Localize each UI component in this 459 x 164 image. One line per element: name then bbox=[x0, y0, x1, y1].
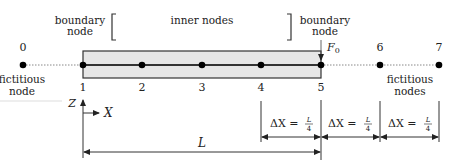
fictitious-left-label-2: node bbox=[9, 85, 35, 97]
bracket-left bbox=[112, 14, 116, 40]
svg-text:ΔX =: ΔX = bbox=[328, 117, 357, 130]
spacing-label-3: ΔX = L 4 bbox=[388, 116, 432, 133]
node-1 bbox=[80, 62, 87, 69]
force-label: F0 bbox=[326, 41, 340, 55]
svg-text:L: L bbox=[365, 116, 371, 124]
boundary-left-label-2: node bbox=[67, 25, 93, 37]
length-label: L bbox=[197, 136, 206, 150]
svg-text:ΔX =: ΔX = bbox=[388, 117, 417, 130]
node-label-5: 5 bbox=[318, 81, 325, 94]
node-label-0: 0 bbox=[20, 41, 27, 54]
node-label-4: 4 bbox=[258, 81, 265, 94]
x-axis-label: X bbox=[103, 106, 113, 120]
node-label-6: 6 bbox=[377, 41, 384, 54]
spacing-label-2: ΔX = L 4 bbox=[328, 116, 372, 133]
node-3 bbox=[199, 62, 206, 69]
fictitious-left-label-1: fictitious bbox=[0, 73, 45, 85]
node-2 bbox=[139, 62, 146, 69]
svg-text:4: 4 bbox=[366, 125, 371, 133]
spacing-label-1: ΔX = L 4 bbox=[270, 116, 313, 133]
fictitious-right-label-1: fictitious bbox=[387, 73, 434, 85]
node-label-3: 3 bbox=[199, 81, 206, 94]
node-6 bbox=[377, 62, 384, 69]
node-label-1: 1 bbox=[80, 81, 87, 94]
node-5 bbox=[318, 62, 325, 69]
inner-nodes-label: inner nodes bbox=[171, 14, 234, 26]
svg-text:L: L bbox=[306, 116, 312, 124]
node-label-2: 2 bbox=[139, 81, 146, 94]
z-axis-label: Z bbox=[67, 97, 76, 110]
node-7 bbox=[436, 62, 443, 69]
bracket-right bbox=[287, 14, 291, 40]
finite-difference-beam-diagram: 0 1 2 3 4 5 6 7 boundary node inner node… bbox=[0, 0, 459, 164]
node-label-7: 7 bbox=[436, 41, 443, 54]
svg-text:4: 4 bbox=[307, 125, 312, 133]
svg-text:4: 4 bbox=[426, 125, 431, 133]
node-0 bbox=[20, 62, 27, 69]
fictitious-right-label-2: nodes bbox=[394, 85, 425, 97]
boundary-right-label-2: node bbox=[312, 25, 338, 37]
svg-text:ΔX =: ΔX = bbox=[270, 117, 299, 130]
svg-text:L: L bbox=[425, 116, 431, 124]
node-4 bbox=[258, 62, 265, 69]
